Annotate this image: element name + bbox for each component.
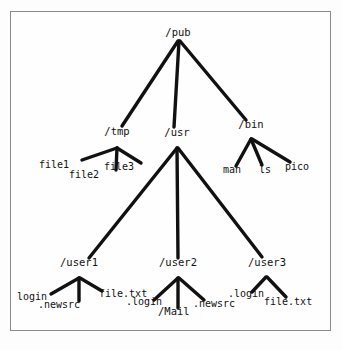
tree-edge-bin-to-man xyxy=(236,139,251,166)
tree-node-bin: /bin xyxy=(238,118,263,130)
tree-node-user3: /user3 xyxy=(248,256,286,268)
tree-edge-tmp-to-file1 xyxy=(82,148,117,160)
diagram-canvas: /pub/tmp/usr/binfile1file2file3manlspico… xyxy=(0,0,342,350)
tree-node-u3file: file.txt xyxy=(264,296,312,307)
tree-edge-usr-to-user3 xyxy=(178,148,262,257)
tree-node-pico: pico xyxy=(285,161,309,172)
tree-edge-user2-to-u2news xyxy=(179,278,204,300)
tree-node-u1news: .newsrc xyxy=(38,299,80,310)
tree-node-file3: file3 xyxy=(104,161,134,172)
directory-tree-diagram: /pub/tmp/usr/binfile1file2file3manlspico… xyxy=(0,0,342,350)
tree-node-u2login: .login xyxy=(126,296,162,307)
tree-edge-user3-to-u3file xyxy=(267,277,286,297)
tree-node-file1: file1 xyxy=(39,159,69,170)
tree-node-u2news: .newsrc xyxy=(193,298,235,309)
tree-node-u2mail: /Mail xyxy=(158,305,190,317)
tree-node-pub: /pub xyxy=(165,26,190,38)
tree-edge-pub-to-tmp xyxy=(122,41,178,126)
tree-node-ls: ls xyxy=(259,164,271,175)
tree-node-u3login: .login xyxy=(228,288,264,299)
tree-node-user2: /user2 xyxy=(159,256,197,268)
tree-edge-usr-to-user2 xyxy=(177,148,178,258)
tree-node-file2: file2 xyxy=(69,169,99,180)
tree-edge-pub-to-bin xyxy=(180,41,246,120)
tree-node-man: man xyxy=(223,164,241,175)
tree-node-labels: /pub/tmp/usr/binfile1file2file3manlspico… xyxy=(17,26,312,317)
tree-node-tmp: /tmp xyxy=(104,125,129,137)
tree-node-usr: /usr xyxy=(164,126,189,138)
tree-node-user1: /user1 xyxy=(60,256,98,268)
tree-edge-pub-to-usr xyxy=(174,41,179,127)
tree-edge-user1-to-u1login xyxy=(51,278,79,294)
